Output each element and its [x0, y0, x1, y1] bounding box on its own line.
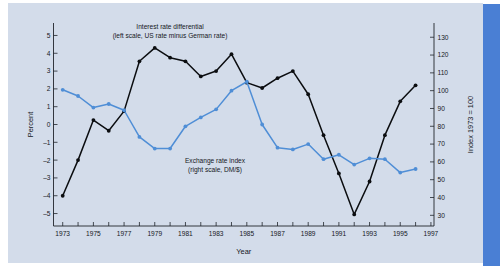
bottom-axis-tick-label: 1995: [393, 230, 408, 237]
data-point-exchange-rate: [337, 153, 341, 157]
data-point-exchange-rate: [368, 156, 372, 160]
data-point-exchange-rate: [230, 89, 234, 93]
data-point-exchange-rate: [383, 157, 387, 161]
data-point-exchange-rate: [260, 123, 264, 127]
right-axis-tick-label: 110: [438, 69, 449, 76]
right-axis-tick-label: 60: [438, 158, 446, 165]
right-axis-tick-label: 80: [438, 123, 446, 130]
data-point-interest-rate: [184, 59, 188, 63]
bottom-axis-tick-label: 1977: [117, 230, 132, 237]
data-point-exchange-rate: [306, 142, 310, 146]
bottom-axis: 1973197519771979198119831985198719891991…: [54, 222, 439, 237]
data-point-exchange-rate: [276, 146, 280, 150]
bottom-axis-tick-label: 1981: [178, 230, 193, 237]
right-axis-tick-label: 30: [438, 212, 446, 219]
right-axis-tick-label: 100: [438, 87, 449, 94]
data-point-interest-rate: [352, 213, 356, 217]
data-point-interest-rate: [91, 118, 95, 122]
exchange-rate-index-label-line2: (right scale, DM/$): [188, 166, 242, 174]
data-point-interest-rate: [368, 180, 372, 184]
left-axis-tick-label: 2: [47, 85, 51, 92]
bottom-axis-tick-label: 1989: [301, 230, 316, 237]
bottom-axis-tick-label: 1975: [86, 230, 101, 237]
data-point-interest-rate: [153, 46, 157, 50]
exchange-rate-index-label-line1: Exchange rate index: [185, 157, 246, 165]
left-axis-tick-label: –5: [43, 210, 51, 217]
data-point-interest-rate: [76, 158, 80, 162]
left-axis-tick-label: 3: [47, 67, 51, 74]
right-axis-tick-label: 50: [438, 176, 446, 183]
data-point-interest-rate: [383, 133, 387, 137]
data-point-interest-rate: [398, 99, 402, 103]
data-point-interest-rate: [337, 172, 341, 176]
left-axis-tick-label: –1: [43, 139, 51, 146]
data-point-exchange-rate: [61, 88, 65, 92]
right-axis-tick-label: 90: [438, 105, 446, 112]
data-point-exchange-rate: [414, 167, 418, 171]
data-point-exchange-rate: [107, 102, 111, 106]
bottom-axis-tick-label: 1991: [332, 230, 347, 237]
series-interest-rate-differential: [61, 46, 418, 216]
left-axis-tick-label: –4: [43, 192, 51, 199]
bottom-axis-tick-label: 1979: [147, 230, 162, 237]
data-point-interest-rate: [414, 83, 418, 87]
y-axis-title: Percent: [26, 112, 35, 137]
data-point-interest-rate: [61, 194, 65, 198]
data-point-interest-rate: [107, 129, 111, 133]
right-axis-tick-label: 120: [438, 51, 449, 58]
left-axis: –5–4–3–2–1012345: [43, 23, 57, 226]
figure-container: –5–4–3–2–1012345 30405060708090100110120…: [0, 0, 500, 266]
left-axis-tick-label: –2: [43, 157, 51, 164]
data-point-exchange-rate: [214, 107, 218, 111]
data-point-exchange-rate: [168, 147, 172, 151]
right-axis-tick-label: 70: [438, 140, 446, 147]
data-point-exchange-rate: [245, 80, 249, 84]
data-point-interest-rate: [168, 56, 172, 60]
data-point-exchange-rate: [291, 148, 295, 152]
data-point-interest-rate: [276, 76, 280, 80]
left-axis-tick-label: 1: [47, 103, 51, 110]
left-axis-tick-label: 0: [47, 121, 51, 128]
data-point-exchange-rate: [153, 147, 157, 151]
data-point-interest-rate: [322, 133, 326, 137]
interest-rate-differential-label-line1: Interest rate differential: [136, 23, 204, 30]
right-axis-tick-label: 40: [438, 194, 446, 201]
right-axis-tick-label: 130: [438, 34, 449, 41]
data-point-exchange-rate: [76, 94, 80, 98]
left-axis-tick-label: 4: [47, 50, 51, 57]
line-chart: –5–4–3–2–1012345 30405060708090100110120…: [0, 0, 500, 266]
data-point-exchange-rate: [138, 135, 142, 139]
data-point-exchange-rate: [184, 124, 188, 128]
left-axis-tick-label: –3: [43, 174, 51, 181]
data-point-interest-rate: [260, 86, 264, 90]
right-axis: 30405060708090100110120130: [430, 23, 449, 226]
x-axis-title: Year: [236, 247, 251, 256]
data-point-exchange-rate: [322, 157, 326, 161]
data-point-exchange-rate: [398, 171, 402, 175]
bottom-axis-tick-label: 1987: [270, 230, 285, 237]
bottom-axis-tick-label: 1985: [239, 230, 254, 237]
secondary-y-axis-title: Index 1973 = 100: [466, 96, 475, 153]
data-point-exchange-rate: [91, 106, 95, 110]
data-point-interest-rate: [306, 92, 310, 96]
data-point-exchange-rate: [199, 115, 203, 119]
bottom-axis-tick-label: 1983: [209, 230, 224, 237]
bottom-axis-tick-label: 1993: [362, 230, 377, 237]
interest-rate-differential-label-line2: (left scale, US rate minus German rate): [113, 32, 228, 40]
data-point-exchange-rate: [122, 108, 126, 112]
data-point-interest-rate: [230, 52, 234, 56]
data-point-interest-rate: [138, 59, 142, 63]
bottom-axis-tick-label: 1973: [55, 230, 70, 237]
left-axis-tick-label: 5: [47, 32, 51, 39]
data-point-interest-rate: [199, 75, 203, 79]
data-point-interest-rate: [291, 69, 295, 73]
data-point-exchange-rate: [352, 163, 356, 167]
bottom-axis-tick-label: 1997: [424, 230, 439, 237]
data-point-interest-rate: [214, 69, 218, 73]
